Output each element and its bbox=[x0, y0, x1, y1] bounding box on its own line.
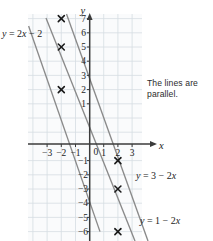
y-tick-label: 4 bbox=[81, 56, 86, 66]
x-axis-label: x bbox=[158, 140, 164, 151]
x-axis-arrowhead bbox=[150, 141, 157, 147]
y-tick-label: 6 bbox=[81, 28, 86, 38]
y-tick-label: −3 bbox=[78, 184, 88, 194]
y-tick-label: −4 bbox=[78, 198, 88, 208]
y-tick-label: −6 bbox=[78, 227, 88, 237]
y-tick-label: 2 bbox=[81, 85, 86, 95]
eq-a-operator: = 2 bbox=[6, 28, 22, 39]
y-tick-label: 5 bbox=[81, 42, 86, 52]
origin-label: 0 bbox=[94, 147, 99, 157]
equation-label-line-a: y = 2x − 2 bbox=[2, 28, 42, 39]
y-tick-label: 1 bbox=[81, 99, 86, 109]
y-axis-label: y bbox=[80, 5, 86, 16]
x-tick-label: 2 bbox=[116, 148, 121, 158]
eq-a-tail: − 2 bbox=[27, 28, 43, 39]
graph-figure: 7 6 5 4 3 2 1 −1 −2 −3 −4 −5 −6 −3 −2 −1… bbox=[0, 0, 213, 241]
y-tick-label: −5 bbox=[78, 213, 88, 223]
equation-label-line-c: y = 1 − 2x bbox=[140, 215, 180, 226]
x-tick-label: −1 bbox=[70, 148, 80, 158]
equation-label-line-b: y = 3 − 2x bbox=[136, 170, 176, 181]
eq-b-x: x bbox=[172, 170, 176, 181]
parallel-lines-note: The lines are parallel. bbox=[147, 78, 211, 100]
y-tick-label: 3 bbox=[81, 71, 86, 81]
eq-b-operator: = 3 − 2 bbox=[140, 170, 171, 181]
x-tick-label: 1 bbox=[101, 148, 106, 158]
eq-c-operator: = 1 − 2 bbox=[144, 215, 175, 226]
x-tick-label: 3 bbox=[130, 148, 135, 158]
x-tick-label: −2 bbox=[56, 148, 66, 158]
y-tick-label: −2 bbox=[78, 170, 88, 180]
eq-c-x: x bbox=[176, 215, 180, 226]
x-tick-label: −3 bbox=[42, 148, 52, 158]
